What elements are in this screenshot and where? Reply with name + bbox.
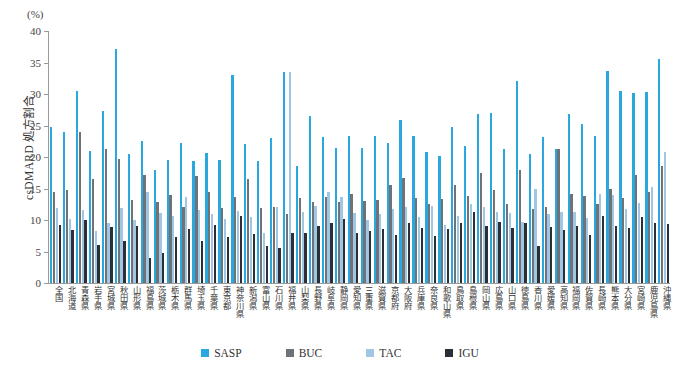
- x-axis-label: 千葉県: [204, 286, 217, 338]
- bar-igu: [408, 223, 410, 283]
- bar-group: [437, 31, 450, 283]
- bar-igu: [356, 233, 358, 283]
- x-axis-label: 山形県: [127, 286, 140, 338]
- legend-swatch-icon: [445, 349, 453, 357]
- bar-igu: [628, 228, 630, 283]
- x-axis-label: 群馬県: [178, 286, 191, 338]
- x-axis-label: 岐阜県: [321, 286, 334, 338]
- x-axis-label: 沖縄県: [657, 286, 670, 338]
- x-axis-label: 福井県: [282, 286, 295, 338]
- bar-group: [140, 31, 153, 283]
- bar-igu: [123, 241, 125, 283]
- bar-group: [385, 31, 398, 283]
- x-axis-label: 全国: [49, 286, 62, 338]
- bar-group: [515, 31, 528, 283]
- bar-group: [334, 31, 347, 283]
- x-axis-label: 福岡県: [567, 286, 580, 338]
- bar-igu: [667, 224, 669, 283]
- bar-igu: [615, 226, 617, 283]
- bar-group: [605, 31, 618, 283]
- legend-swatch-icon: [366, 349, 374, 357]
- bar-igu: [395, 235, 397, 283]
- legend-swatch-icon: [201, 349, 209, 357]
- x-axis-label: 愛知県: [347, 286, 360, 338]
- x-axis-label: 岡山県: [476, 286, 489, 338]
- x-axis-label: 岩手県: [88, 286, 101, 338]
- bar-igu: [576, 226, 578, 283]
- x-axis-label: 青森県: [75, 286, 88, 338]
- x-axis-label: 広島県: [489, 286, 502, 338]
- bar-group: [243, 31, 256, 283]
- y-tick-label: 20: [30, 152, 41, 163]
- x-axis-label: 茨城県: [153, 286, 166, 338]
- bar-igu: [304, 233, 306, 283]
- x-axis-label: 長野県: [308, 286, 321, 338]
- bar-group: [360, 31, 373, 283]
- x-axis-label: 北海道: [62, 286, 75, 338]
- y-tick-mark: [44, 283, 48, 284]
- bar-group: [489, 31, 502, 283]
- bar-group: [541, 31, 554, 283]
- bar-igu: [421, 228, 423, 283]
- bar-igu: [97, 245, 99, 283]
- y-tick-mark: [44, 252, 48, 253]
- bar-igu: [253, 234, 255, 283]
- bar-igu: [71, 230, 73, 283]
- legend-item-sasp: SASP: [201, 347, 242, 359]
- y-tick-label: 35: [30, 57, 41, 68]
- x-axis-label: 三重県: [360, 286, 373, 338]
- y-tick-label: 30: [30, 89, 41, 100]
- x-axis-label: 大阪府: [398, 286, 411, 338]
- x-axis-label: 熊本県: [605, 286, 618, 338]
- x-axis-label: 東京都: [217, 286, 230, 338]
- bar-group: [178, 31, 191, 283]
- x-axis-label: 香川県: [528, 286, 541, 338]
- bar-igu: [537, 246, 539, 283]
- y-tick-label: 5: [36, 246, 42, 257]
- bar-igu: [149, 258, 151, 283]
- bar-group: [269, 31, 282, 283]
- bar-group: [476, 31, 489, 283]
- y-tick-label: 15: [30, 183, 41, 194]
- bar-group: [256, 31, 269, 283]
- bar-group: [528, 31, 541, 283]
- x-axis-label: 滋賀県: [372, 286, 385, 338]
- bar-igu: [498, 222, 500, 283]
- bar-igu: [447, 229, 449, 283]
- legend-label: BUC: [299, 347, 323, 359]
- bar-igu: [343, 219, 345, 283]
- bar-igu: [524, 223, 526, 283]
- bar-group: [424, 31, 437, 283]
- bar-igu: [278, 248, 280, 283]
- x-axis-label: 京都府: [385, 286, 398, 338]
- bar-group: [204, 31, 217, 283]
- bar-group: [88, 31, 101, 283]
- chart-figure: (%) csDMARD 処方割合 0510152025303540 全国北海道青…: [0, 0, 680, 371]
- y-tick-mark: [44, 157, 48, 158]
- bar-group: [592, 31, 605, 283]
- bar-igu: [602, 216, 604, 283]
- bar-group: [450, 31, 463, 283]
- bar-igu: [266, 246, 268, 283]
- bar-igu: [369, 231, 371, 283]
- y-tick-mark: [44, 31, 48, 32]
- bar-igu: [201, 241, 203, 283]
- chart-legend: SASPBUCTACIGU: [0, 347, 680, 359]
- y-tick-mark: [44, 126, 48, 127]
- x-axis-label: 富山県: [256, 286, 269, 338]
- x-axis-label: 大分県: [618, 286, 631, 338]
- bar-igu: [460, 223, 462, 283]
- bar-group: [282, 31, 295, 283]
- bar-igu: [110, 227, 112, 283]
- y-tick-mark: [44, 220, 48, 221]
- bar-group: [153, 31, 166, 283]
- bar-group: [631, 31, 644, 283]
- bar-group: [554, 31, 567, 283]
- x-axis-label: 高知県: [554, 286, 567, 338]
- x-axis-label: 徳島県: [515, 286, 528, 338]
- x-axis-label: 福島県: [140, 286, 153, 338]
- legend-label: SASP: [214, 347, 242, 359]
- bar-group: [127, 31, 140, 283]
- bar-group: [372, 31, 385, 283]
- y-tick-label: 0: [36, 278, 42, 289]
